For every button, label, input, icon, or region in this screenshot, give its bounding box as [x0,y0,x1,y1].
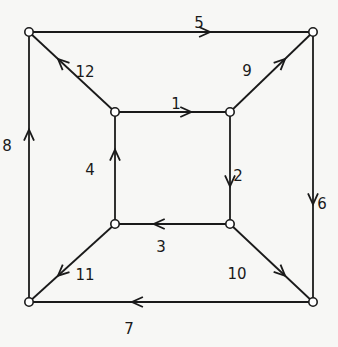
edge-label: 12 [75,63,94,81]
edge-label: 11 [75,266,94,284]
edges-layer [29,32,313,302]
edge-label: 4 [85,161,95,179]
edge-10 [230,224,313,302]
edge-12 [29,32,115,112]
edge-label: 8 [2,137,12,155]
edge-label: 9 [242,62,252,80]
node-outer-top-right [309,28,317,36]
edge-label: 1 [171,95,181,113]
node-inner-bottom-right [226,220,234,228]
edge-label: 7 [124,320,134,338]
node-outer-bottom-left [25,298,33,306]
node-outer-top-left [25,28,33,36]
node-inner-bottom-left [111,220,119,228]
edge-label: 5 [194,14,204,32]
node-inner-top-right [226,108,234,116]
edge-label: 6 [317,195,327,213]
edge-label: 2 [233,167,243,185]
directed-graph-diagram: 123456789101112 [0,0,338,347]
edge-label: 10 [227,265,246,283]
edge-label: 3 [156,238,166,256]
node-inner-top-left [111,108,119,116]
node-outer-bottom-right [309,298,317,306]
edge-11 [29,224,115,302]
